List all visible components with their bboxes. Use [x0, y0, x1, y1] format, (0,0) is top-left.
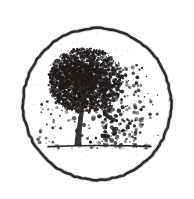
emblem-canvas: Black ink stipple drawing of a leafy tre… [0, 0, 194, 199]
tree-emblem-illustration: Black ink stipple drawing of a leafy tre… [0, 0, 194, 199]
